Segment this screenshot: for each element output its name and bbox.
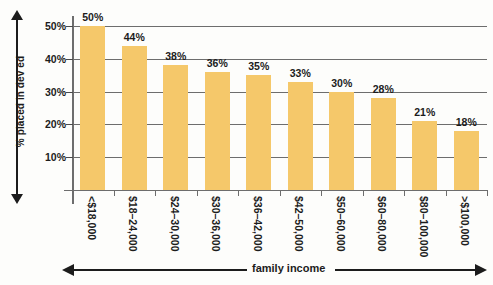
bar (371, 98, 396, 190)
arrow-right-icon (475, 264, 487, 276)
x-tick-label: $42–50,000 (293, 196, 305, 251)
bar-value-label: 18% (446, 116, 487, 128)
bar-value-label: 50% (72, 11, 113, 23)
x-axis-title: family income (247, 262, 330, 274)
x-tick-mark (321, 190, 322, 196)
bar (454, 131, 479, 190)
bar (246, 75, 271, 190)
x-tick-label: <$18,000 (86, 196, 98, 240)
x-tick-mark (114, 190, 115, 196)
x-tick-label: $36–42,000 (252, 196, 264, 251)
bar (288, 82, 313, 190)
x-tick-label: $24–30,000 (169, 196, 181, 251)
bar-value-label: 44% (114, 31, 155, 43)
bar-value-label: 36% (197, 57, 238, 69)
x-tick-mark (72, 190, 73, 196)
x-tick-mark (280, 190, 281, 196)
x-tick-mark (404, 190, 405, 196)
x-tick-mark (197, 190, 198, 196)
chart-figure: % placed in dev ed 10%20%30%40%50% 50%<$… (0, 0, 493, 285)
arrow-left-icon (62, 264, 74, 276)
bar-value-label: 35% (238, 60, 279, 72)
x-tick-label: $60–80,000 (376, 196, 388, 251)
x-axis-caption: family income (62, 262, 487, 278)
x-axis-caption-rule-left (74, 269, 252, 271)
bar (163, 65, 188, 190)
bar (122, 46, 147, 190)
x-tick-mark (155, 190, 156, 196)
bar (80, 26, 105, 190)
bar-value-label: 33% (280, 67, 321, 79)
x-tick-label: >$100,000 (459, 196, 471, 246)
x-tick-mark (238, 190, 239, 196)
bar-value-label: 30% (321, 77, 362, 89)
x-tick-mark (487, 190, 488, 196)
bar (412, 121, 437, 190)
x-tick-mark (363, 190, 364, 196)
bar-value-label: 38% (155, 50, 196, 62)
x-tick-label: $80–100,000 (418, 196, 430, 257)
x-tick-label: $30–36,000 (210, 196, 222, 251)
x-tick-label: $18–24,000 (127, 196, 139, 251)
x-tick-mark (446, 190, 447, 196)
bars-layer: 50%<$18,00044%$18–24,00038%$24–30,00036%… (0, 0, 493, 285)
bar (329, 92, 354, 190)
x-axis-caption-rule-right (335, 269, 475, 271)
x-tick-label: $50–60,000 (335, 196, 347, 251)
bar-value-label: 28% (363, 83, 404, 95)
bar-value-label: 21% (404, 106, 445, 118)
bar (205, 72, 230, 190)
